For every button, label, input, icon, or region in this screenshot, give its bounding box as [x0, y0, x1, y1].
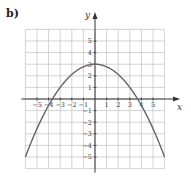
y-tick-label: −1 [82, 107, 92, 115]
y-axis-label: y [84, 10, 91, 20]
y-tick-label: 2 [88, 72, 92, 80]
y-tick-label: 4 [88, 49, 92, 57]
y-tick-label: 5 [88, 37, 92, 45]
parabola-chart: −5−4−3−2−11234554321−1−2−3−4−5 x y [0, 0, 191, 182]
x-tick-label: 2 [116, 101, 120, 109]
x-axis-label: x [177, 102, 182, 112]
x-tick-label: 5 [151, 101, 155, 109]
x-tick-label: −5 [32, 101, 42, 109]
x-axis-arrow-icon [173, 97, 180, 102]
y-tick-label: −2 [82, 119, 92, 127]
axes [21, 12, 180, 173]
x-tick-label: 3 [128, 101, 132, 109]
x-tick-label: 1 [105, 101, 109, 109]
x-tick-label: −2 [67, 101, 77, 109]
y-axis-arrow-icon [93, 12, 98, 19]
y-tick-label: −4 [82, 142, 92, 150]
y-tick-label: 1 [88, 84, 92, 92]
y-tick-label: −3 [82, 130, 92, 138]
y-tick-label: −5 [82, 153, 92, 161]
x-tick-label: −3 [55, 101, 65, 109]
